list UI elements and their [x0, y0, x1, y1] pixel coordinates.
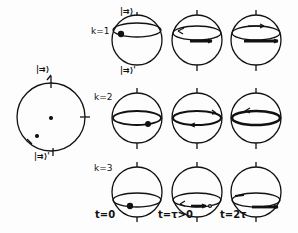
- sphere-k2-t0: [112, 88, 162, 149]
- diagram-drawing: [0, 0, 298, 233]
- left-circle-bottom-label: |⇉⟩': [34, 152, 50, 161]
- column-label-t0: t=0: [95, 209, 115, 220]
- left-circle: [17, 75, 90, 156]
- figure: |⇉⟩ |⇉⟩' |⇉⟩ |⇉⟩' k=1 k=2 k=3 t=0 t=τ>0 …: [0, 0, 298, 233]
- column-label-t2: t=2τ: [220, 209, 247, 220]
- sphere-k2-t1: [172, 88, 222, 149]
- row-label-k2: k=2: [94, 92, 112, 102]
- row-label-k1: k=1: [91, 26, 109, 36]
- sphere-k1-t0: [112, 12, 162, 65]
- sphere-south-label: |⇉⟩': [120, 66, 136, 75]
- sphere-k2-t2: [231, 88, 281, 149]
- sphere-k3-t0: [112, 162, 162, 222]
- sphere-k1-t1: [172, 10, 222, 71]
- column-label-t1: t=τ>0: [158, 209, 193, 220]
- sphere-north-label: |⇉⟩: [120, 7, 133, 16]
- sphere-k1-t2: [231, 10, 281, 71]
- left-circle-top-label: |⇉⟩: [36, 65, 49, 74]
- row-label-k3: k=3: [94, 163, 112, 173]
